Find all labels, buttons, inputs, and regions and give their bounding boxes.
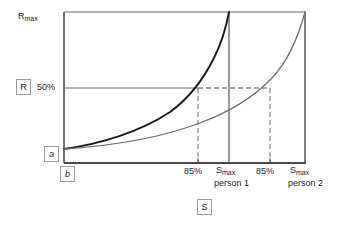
y-axis-max-label-sub: max — [25, 15, 38, 22]
x-tick-label-smax-person1: Smax — [216, 165, 235, 176]
x-axis-variable-box[interactable]: S — [197, 199, 212, 215]
y-axis-max-label: Rmax — [18, 11, 38, 22]
x-tick-label-85-person2: 85% — [256, 166, 274, 177]
y-intercept-variable-box[interactable]: a — [44, 146, 59, 162]
x-tick-label-85-person1: 85% — [184, 166, 202, 177]
curve-person1 — [64, 12, 229, 149]
y-axis-max-label-main: R — [18, 11, 25, 21]
x-origin-variable-box[interactable]: b — [60, 166, 75, 182]
x-tick-label-smax-person1-sub: max — [222, 169, 235, 176]
x-tick-label-person1-line2: person 1 — [214, 178, 249, 189]
y-axis-variable-box[interactable]: R — [16, 79, 31, 95]
x-tick-label-person2-line2: person 2 — [288, 178, 323, 189]
exponential-response-chart: Rmax 50% R a b S 85% Smax person 1 85% S… — [0, 0, 345, 229]
chart-svg — [0, 0, 345, 229]
curve-person2 — [64, 12, 305, 149]
x-tick-label-smax-person2: Smax — [290, 165, 309, 176]
y-axis-50-percent-label: 50% — [37, 82, 55, 93]
x-tick-label-smax-person2-sub: max — [296, 169, 309, 176]
